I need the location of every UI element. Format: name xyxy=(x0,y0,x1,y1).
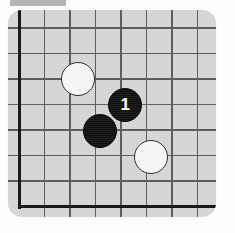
stone-move-number-label: 1 xyxy=(109,89,141,121)
go-board-panel[interactable]: 1 xyxy=(8,10,216,217)
top-marker-bar xyxy=(10,0,66,6)
diagram-stage: 1 xyxy=(0,0,235,233)
stone-black-move-1[interactable]: 1 xyxy=(108,88,142,122)
stone-white-lower-right[interactable] xyxy=(134,140,168,174)
stone-white-upper-left[interactable] xyxy=(61,62,95,96)
stone-black-lower-left[interactable] xyxy=(83,114,117,148)
